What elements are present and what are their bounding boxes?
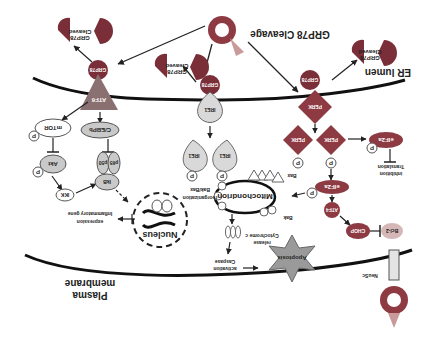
svg-text:Caspase: Caspase xyxy=(215,259,236,265)
svg-text:activation: activation xyxy=(213,266,236,272)
cytochrome-c-icon xyxy=(226,226,241,238)
svg-text:CHOP: CHOP xyxy=(350,228,365,234)
akt-node: Akt P xyxy=(33,155,66,177)
cleaved-grp78-right: Cleaved GRP78 xyxy=(352,40,397,66)
eif2a-translation-node: eIF2a P xyxy=(367,132,403,153)
cleaved-grp78-left: Cleaved GRP78 xyxy=(58,18,113,44)
svg-text:P: P xyxy=(310,190,314,196)
neusc-receptor-icon xyxy=(380,250,408,328)
er-lumen-label: ER lumen xyxy=(365,67,411,78)
svg-text:p65: p65 xyxy=(109,160,118,166)
apoptosis-burst: Apoptosis xyxy=(269,235,315,282)
svg-text:GRP78: GRP78 xyxy=(360,55,380,61)
svg-text:PERK: PERK xyxy=(308,104,322,110)
membrane-label: membrane xyxy=(64,278,115,289)
svg-text:GRP78: GRP78 xyxy=(302,77,319,83)
svg-text:IRE1: IRE1 xyxy=(188,153,199,159)
svg-text:inhibition: inhibition xyxy=(380,171,403,177)
svg-text:GRP78: GRP78 xyxy=(90,67,107,73)
svg-text:P: P xyxy=(36,169,40,175)
svg-text:Apoptosis: Apoptosis xyxy=(277,255,307,261)
ire1-dimer: IRE1 IRE1 P P xyxy=(183,140,237,181)
svg-text:Bcl-2: Bcl-2 xyxy=(386,228,398,234)
svg-text:GRP78: GRP78 xyxy=(202,82,219,88)
svg-text:P: P xyxy=(329,160,333,166)
svg-text:Bak/Bax: Bak/Bax xyxy=(190,187,210,193)
chop-node: CHOP xyxy=(346,223,370,239)
cleaved-grp78-middle: Cleaved GRP78 xyxy=(155,54,209,80)
svg-text:IRE1: IRE1 xyxy=(219,153,230,159)
svg-text:Translation: Translation xyxy=(378,164,405,170)
svg-text:PERK: PERK xyxy=(291,137,305,143)
plasma-label: Plasma xyxy=(72,290,107,301)
svg-text:expression: expression xyxy=(77,219,103,225)
svg-text:P: P xyxy=(190,173,194,179)
eif2a-node: eIF2a P xyxy=(307,180,349,198)
svg-text:PERK: PERK xyxy=(324,137,338,143)
svg-text:Bak: Bak xyxy=(283,215,292,221)
svg-text:C/EBPb: C/EBPb xyxy=(89,127,111,133)
svg-text:ATF6: ATF6 xyxy=(91,97,106,103)
svg-text:ATF4: ATF4 xyxy=(326,207,338,213)
svg-text:mTOR: mTOR xyxy=(43,125,62,131)
svg-text:IkB: IkB xyxy=(103,179,111,185)
svg-text:IKK: IKK xyxy=(60,192,69,198)
neusc-label: NeuSc xyxy=(362,273,378,279)
svg-text:Cytochrome c: Cytochrome c xyxy=(245,233,279,239)
svg-text:Mitochondrion: Mitochondrion xyxy=(217,192,273,201)
ikb-node: IkB xyxy=(95,174,119,190)
svg-text:P: P xyxy=(296,160,300,166)
svg-text:eIF2a: eIF2a xyxy=(378,137,394,143)
grp78-on-perk: GRP78 xyxy=(300,70,320,90)
svg-text:IRE1: IRE1 xyxy=(204,107,215,113)
ikk-node: IKK xyxy=(56,189,74,201)
svg-text:Nucleus: Nucleus xyxy=(142,230,177,240)
svg-text:Bax: Bax xyxy=(287,173,296,179)
nucleus: Nucleus xyxy=(133,193,187,247)
svg-text:Inflammatory gene: Inflammatory gene xyxy=(68,211,113,217)
svg-text:p50: p50 xyxy=(98,160,107,166)
atf4-node: ATF4 xyxy=(324,202,340,218)
mtor-node: mTOR P xyxy=(29,119,71,141)
grp78-cleavage-title: GRP78 Cleavage xyxy=(250,29,330,40)
ire1-membrane: IRE1 xyxy=(198,92,223,123)
svg-text:P: P xyxy=(32,133,36,139)
svg-text:Cleaved: Cleaved xyxy=(358,49,381,55)
svg-text:P: P xyxy=(370,145,374,151)
svg-text:eIF2a: eIF2a xyxy=(324,184,340,190)
upr-pathway-diagram: Cleaved GRP78 Cleaved GRP78 Cleaved GRP7… xyxy=(0,0,436,345)
bcl2-node: Bcl-2 xyxy=(381,223,403,239)
svg-text:P: P xyxy=(220,173,224,179)
svg-text:GRP78: GRP78 xyxy=(167,69,187,75)
protease-ring-icon xyxy=(208,16,244,56)
svg-text:Akt: Akt xyxy=(48,161,58,167)
cebpb-node: C/EBPb xyxy=(81,122,119,138)
svg-text:reorganization: reorganization xyxy=(183,195,217,201)
svg-text:GRP78: GRP78 xyxy=(70,35,90,41)
svg-text:release: release xyxy=(253,240,270,246)
nfkb-complex: p50 p65 xyxy=(97,152,120,174)
svg-text:Cleaved: Cleaved xyxy=(68,29,91,35)
